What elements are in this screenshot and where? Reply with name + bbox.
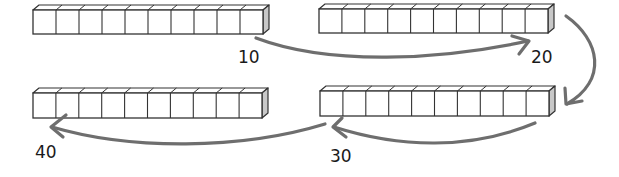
rod-1 <box>33 5 269 34</box>
count-label-40: 40 <box>35 142 57 162</box>
arrow-10-to-20 <box>256 36 529 57</box>
rod-3 <box>33 88 268 118</box>
rod-2 <box>319 4 554 33</box>
base-ten-diagram <box>0 0 619 177</box>
rods-group <box>33 4 555 118</box>
count-label-30: 30 <box>330 146 352 166</box>
count-label-10: 10 <box>238 47 260 67</box>
count-label-20: 20 <box>531 47 553 67</box>
rod-4 <box>320 86 555 116</box>
arrow-to-40 <box>51 115 325 144</box>
arrow-30-to-40 <box>333 118 535 143</box>
arrow-20-to-30 <box>565 16 595 104</box>
